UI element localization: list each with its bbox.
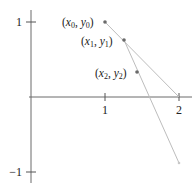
point-x1-y1	[122, 38, 126, 42]
y-tick-label-neg1: −1	[9, 165, 22, 179]
x-tick-label-1: 1	[102, 103, 108, 117]
tangent-line-from-p1	[124, 40, 179, 163]
y-tick-label-1: 1	[16, 15, 22, 29]
x-tick-label-2: 2	[176, 103, 182, 117]
label-x1-y1: (x1, y1)	[81, 35, 113, 49]
tangent-line-from-p0	[105, 22, 179, 97]
newton-method-diagram: 1 2 1 −1 (x0, y0) (x1, y1) (x2, y2)	[0, 0, 196, 191]
point-x0-y0	[103, 20, 107, 24]
label-x0-y0: (x0, y0)	[62, 16, 94, 30]
tangent-endpoint-marker	[178, 162, 181, 165]
label-x2-y2: (x2, y2)	[95, 67, 127, 81]
point-x2-y2	[135, 70, 139, 74]
